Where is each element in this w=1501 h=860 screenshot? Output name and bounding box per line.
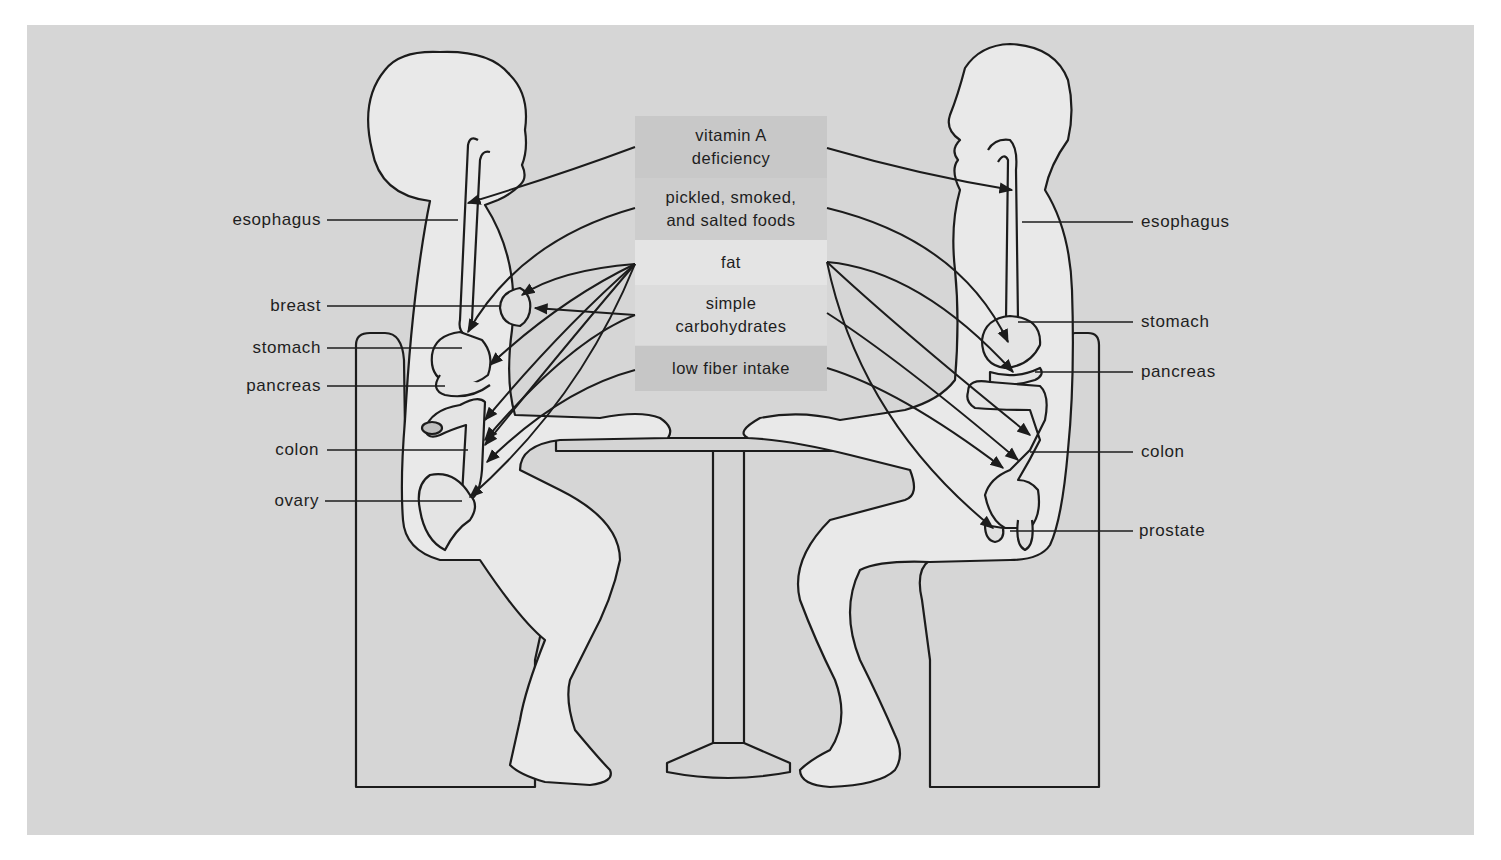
label-male-esophagus: esophagus [1141, 212, 1230, 232]
label-male-prostate: prostate [1139, 521, 1205, 541]
label-female-breast: breast [270, 296, 321, 316]
label-female-stomach: stomach [253, 338, 321, 358]
diagram-artwork [0, 0, 1501, 860]
table-base [667, 743, 790, 778]
table-pedestal [713, 451, 744, 743]
label-female-pancreas: pancreas [246, 376, 321, 396]
label-female-colon: colon [275, 440, 319, 460]
label-female-esophagus: esophagus [232, 210, 321, 230]
label-male-stomach: stomach [1141, 312, 1209, 332]
label-male-colon: colon [1141, 442, 1185, 462]
label-female-ovary: ovary [274, 491, 319, 511]
label-male-pancreas: pancreas [1141, 362, 1216, 382]
